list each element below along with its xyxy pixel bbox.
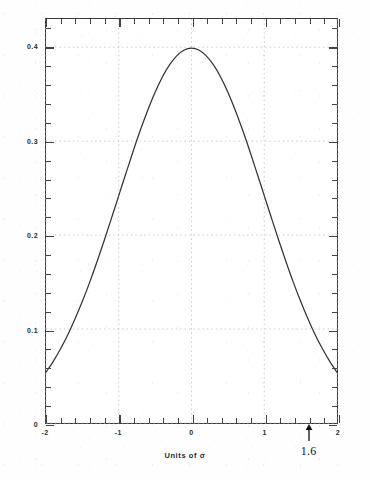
x-tick-minor <box>310 418 311 423</box>
y-tick-minor <box>46 217 51 218</box>
y-tick-minor <box>46 293 51 294</box>
y-tick-minor <box>332 180 337 181</box>
y-tick-major <box>329 47 337 48</box>
x-tick-minor <box>90 19 91 24</box>
x-tick-major <box>193 19 194 27</box>
y-tick-label: 0.4 <box>4 43 38 50</box>
y-tick-minor <box>332 312 337 313</box>
y-tick-major <box>329 236 337 237</box>
x-tick-minor <box>163 19 164 24</box>
y-tick-minor <box>46 28 51 29</box>
y-tick-minor <box>46 104 51 105</box>
x-tick-minor <box>178 418 179 423</box>
x-tick-minor <box>295 19 296 24</box>
x-tick-minor <box>149 418 150 423</box>
x-tick-minor <box>207 418 208 423</box>
x-tick-major <box>119 415 120 423</box>
x-tick-minor <box>236 418 237 423</box>
y-tick-major <box>329 425 337 426</box>
y-tick-minor <box>46 255 51 256</box>
y-tick-minor <box>332 293 337 294</box>
vertical-gridlines <box>46 19 337 423</box>
y-tick-minor <box>332 123 337 124</box>
x-tick-minor <box>222 418 223 423</box>
x-tick-major <box>193 415 194 423</box>
x-tick-major <box>46 19 47 27</box>
x-tick-minor <box>149 19 150 24</box>
y-tick-minor <box>332 217 337 218</box>
x-tick-label: 1 <box>250 429 280 436</box>
plot-area <box>45 18 338 424</box>
y-tick-minor <box>332 368 337 369</box>
y-tick-minor <box>332 387 337 388</box>
x-tick-minor <box>207 19 208 24</box>
figure-canvas: 00.10.20.30.4 -2-1012 Units of σ 1.6 <box>0 0 370 480</box>
x-tick-minor <box>75 19 76 24</box>
x-tick-minor <box>90 418 91 423</box>
x-tick-minor <box>61 418 62 423</box>
x-tick-minor <box>105 418 106 423</box>
y-tick-minor <box>332 406 337 407</box>
x-tick-label: -2 <box>30 429 60 436</box>
curve-layer <box>46 19 337 423</box>
x-tick-major <box>266 415 267 423</box>
x-tick-minor <box>134 19 135 24</box>
y-tick-label: 0.3 <box>4 137 38 144</box>
x-tick-minor <box>280 19 281 24</box>
x-tick-minor <box>295 418 296 423</box>
up-arrow-icon <box>303 424 315 442</box>
y-tick-label: 0.2 <box>4 232 38 239</box>
y-tick-label: 0.1 <box>4 326 38 333</box>
y-tick-major <box>329 142 337 143</box>
y-tick-minor <box>332 349 337 350</box>
x-tick-minor <box>75 418 76 423</box>
y-tick-minor <box>46 406 51 407</box>
y-tick-minor <box>332 274 337 275</box>
x-tick-major <box>46 415 47 423</box>
y-tick-minor <box>46 123 51 124</box>
x-tick-minor <box>236 19 237 24</box>
y-tick-minor <box>46 85 51 86</box>
x-tick-major <box>119 19 120 27</box>
x-tick-label: 0 <box>177 429 207 436</box>
x-tick-minor <box>61 19 62 24</box>
y-tick-minor <box>46 66 51 67</box>
y-tick-minor <box>46 274 51 275</box>
y-tick-minor <box>46 198 51 199</box>
annotation-label-1-6: 1.6 <box>301 444 317 459</box>
x-tick-label: 2 <box>323 429 353 436</box>
x-tick-minor <box>222 19 223 24</box>
x-tick-minor <box>310 19 311 24</box>
y-tick-major <box>46 236 54 237</box>
x-tick-label: -1 <box>103 429 133 436</box>
y-tick-major <box>329 331 337 332</box>
y-tick-minor <box>46 312 51 313</box>
y-tick-major <box>46 425 54 426</box>
x-tick-minor <box>324 19 325 24</box>
x-tick-major <box>266 19 267 27</box>
x-tick-minor <box>134 418 135 423</box>
y-tick-minor <box>46 161 51 162</box>
x-tick-major <box>339 19 340 27</box>
y-tick-minor <box>46 180 51 181</box>
y-tick-major <box>46 142 54 143</box>
x-tick-minor <box>251 418 252 423</box>
y-tick-minor <box>332 28 337 29</box>
y-tick-minor <box>332 104 337 105</box>
x-tick-minor <box>251 19 252 24</box>
y-tick-minor <box>332 198 337 199</box>
y-tick-major <box>46 331 54 332</box>
x-tick-minor <box>178 19 179 24</box>
y-tick-minor <box>332 85 337 86</box>
y-tick-minor <box>332 66 337 67</box>
y-tick-minor <box>332 161 337 162</box>
x-tick-minor <box>105 19 106 24</box>
x-tick-minor <box>324 418 325 423</box>
y-tick-label: 0 <box>4 421 38 428</box>
y-tick-minor <box>332 255 337 256</box>
y-tick-minor <box>46 349 51 350</box>
y-tick-minor <box>46 368 51 369</box>
y-tick-major <box>46 47 54 48</box>
x-tick-major <box>339 415 340 423</box>
x-tick-minor <box>163 418 164 423</box>
